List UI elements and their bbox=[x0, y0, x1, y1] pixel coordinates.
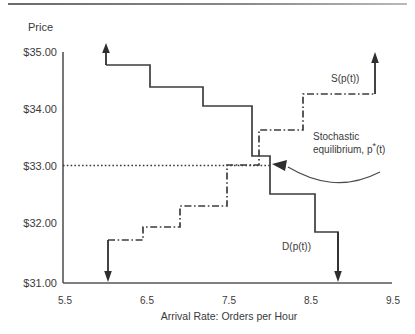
y-tick-label-31: $31.00 bbox=[23, 277, 57, 289]
y-tick-label-35: $35.00 bbox=[23, 46, 57, 58]
supply-start-down-arrow-icon bbox=[104, 240, 112, 282]
y-axis-tick-labels: $35.00 $34.00 $33.00 $32.00 $31.00 bbox=[23, 46, 57, 289]
annotation-line-2-main: equilibrium, p bbox=[313, 144, 373, 155]
stochastic-equilibrium-step-chart: $35.00 $34.00 $33.00 $32.00 $31.00 Price… bbox=[0, 0, 415, 334]
y-tick-label-34: $34.00 bbox=[23, 103, 57, 115]
demand-curve-series: D(p(t)) bbox=[102, 43, 342, 282]
stochastic-equilibrium-annotation: Stochastic equilibrium, p*(t) bbox=[272, 131, 385, 183]
annotation-leader-line bbox=[288, 167, 380, 183]
x-tick-label-9-5: 9.5 bbox=[386, 295, 400, 306]
x-tick-label-7-5: 7.5 bbox=[222, 295, 236, 306]
annotation-line-2: equilibrium, p*(t) bbox=[313, 141, 385, 155]
supply-curve-label: S(p(t)) bbox=[331, 73, 359, 84]
demand-end-down-arrow-icon bbox=[334, 232, 342, 282]
y-tick-label-33: $33.00 bbox=[23, 160, 57, 172]
demand-curve-label: D(p(t)) bbox=[282, 241, 311, 252]
annotation-line-2-tail: (t) bbox=[376, 144, 385, 155]
demand-start-up-arrow-icon bbox=[102, 43, 110, 65]
supply-curve-path bbox=[108, 94, 375, 240]
annotation-arrowhead-icon bbox=[272, 160, 287, 171]
y-tick-label-32: $32.00 bbox=[23, 217, 57, 229]
chart-figure: $35.00 $34.00 $33.00 $32.00 $31.00 Price… bbox=[0, 0, 415, 334]
x-tick-label-5-5: 5.5 bbox=[58, 295, 72, 306]
annotation-line-1: Stochastic bbox=[313, 131, 359, 142]
x-axis-title: Arrival Rate: Orders per Hour bbox=[161, 310, 298, 322]
supply-end-up-arrow-icon bbox=[371, 52, 379, 94]
axis-group bbox=[63, 52, 392, 283]
x-tick-label-6-5: 6.5 bbox=[140, 295, 154, 306]
x-axis-tick-labels: 5.5 6.5 7.5 8.5 9.5 bbox=[58, 295, 400, 306]
y-axis-title: Price bbox=[28, 21, 53, 33]
x-tick-label-8-5: 8.5 bbox=[304, 295, 318, 306]
